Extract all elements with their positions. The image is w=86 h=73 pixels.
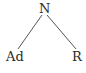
tree-node-left-child: Ad (6, 50, 24, 64)
syntax-tree: N Ad R (0, 0, 86, 73)
tree-node-root: N (39, 2, 50, 16)
edge-root-to-r (47, 15, 76, 49)
edge-root-to-ad (18, 15, 42, 49)
tree-node-right-child: R (72, 50, 82, 64)
